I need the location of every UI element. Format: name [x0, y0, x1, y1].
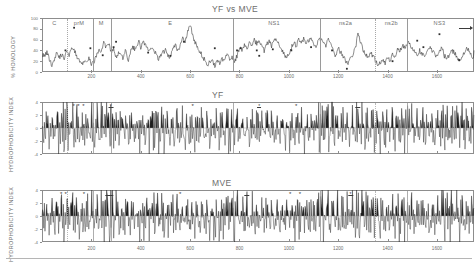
panel-homology-xtick-label: 1400	[382, 74, 392, 79]
panel-homology-xtick-mark	[437, 70, 438, 73]
panel-homology-ytick: 60	[24, 37, 38, 42]
mve-hydrophobicity-ytick: -2	[24, 227, 38, 232]
mve-hydrophobicity-xtick-mark	[338, 239, 339, 242]
conserved-site-asterisk: *	[65, 191, 67, 197]
yf-hydrophobicity-xtick-mark	[141, 151, 142, 154]
gene-region-divider	[320, 103, 321, 153]
panel-homology-xtick-mark	[190, 70, 191, 73]
conserved-site-asterisk: *	[77, 103, 79, 109]
panel-homology-xtick-label: 1000	[284, 74, 294, 79]
mve-hydrophobicity-xtick-mark	[141, 239, 142, 242]
conserved-region-marker: *	[350, 191, 352, 197]
panel-homology-ytick: 20	[24, 59, 38, 64]
yf-hydrophobicity-xtick-mark	[338, 151, 339, 154]
conserved-site-asterisk: *	[179, 191, 181, 197]
panel-homology-xtick-label: 1600	[432, 74, 442, 79]
panel-yf-hydrophobicity: YF HYDROPHOBICITY INDEX 420-2-4*******	[0, 88, 476, 176]
yf-hydrophobicity-ytick: 2	[24, 113, 38, 118]
mve-hydrophobicity-xtick-mark	[437, 239, 438, 242]
conserved-site-asterisk: *	[83, 191, 85, 197]
gene-region-divider	[407, 103, 408, 153]
panel-homology-xtick-label: 600	[186, 74, 194, 79]
gene-region-divider	[111, 103, 112, 153]
conserved-site-asterisk: *	[60, 191, 62, 197]
panel-homology-xtick-label: 200	[88, 74, 96, 79]
gene-region-divider	[320, 19, 321, 71]
panel-homology-ytick-mark	[40, 18, 42, 19]
conserved-site-asterisk: *	[299, 191, 301, 197]
yf-hydrophobicity-ytick: 4	[24, 100, 38, 105]
gene-region-divider	[93, 103, 94, 153]
gene-region-label-ns3: NS3	[434, 20, 446, 26]
mve-hydrophobicity-ytick: 2	[24, 201, 38, 206]
panel-homology: YF vs MVE % HOMOLOGY 020406080100CprMMEN…	[0, 0, 476, 90]
panel-homology-ytick: 100	[24, 16, 38, 21]
conserved-site-asterisk: *	[191, 103, 193, 109]
yf-hydrophobicity-ytick: 0	[24, 126, 38, 131]
gene-region-divider	[233, 191, 234, 241]
mve-hydrophobicity-ytick-mark	[40, 190, 42, 191]
gene-region-divider	[375, 191, 376, 241]
panel-homology-xtick-label: 1200	[333, 74, 343, 79]
conserved-region-bar	[105, 195, 112, 196]
panel-homology-ytick-mark	[40, 72, 42, 73]
panel-homology-xtick-mark	[338, 70, 339, 73]
panel-homology-ytick-mark	[40, 40, 42, 41]
mve-hydrophobicity-xtick-mark	[239, 239, 240, 242]
mve-hydrophobicity-xtick-mark	[190, 239, 191, 242]
yf-hydrophobicity-ytick-mark	[40, 128, 42, 129]
gene-region-divider	[233, 19, 234, 71]
gene-region-label-c: C	[52, 20, 56, 26]
gene-region-divider	[375, 103, 376, 153]
conserved-region-marker: *	[110, 103, 112, 109]
x-axis-tick-label: 1000	[284, 246, 294, 251]
x-axis-tick-label: 1600	[432, 246, 442, 251]
conserved-site-asterisk: *	[82, 103, 84, 109]
mve-hydrophobicity-ytick: -4	[24, 240, 38, 245]
panel-homology-xtick-mark	[388, 70, 389, 73]
x-axis-tick-label: 1400	[382, 246, 392, 251]
arrow-line	[459, 28, 470, 29]
panel-homology-ytick-mark	[40, 61, 42, 62]
yf-hydrophobicity-ytick-mark	[40, 102, 42, 103]
mve-hydrophobicity-xtick-mark	[91, 239, 92, 242]
arrow-head	[470, 26, 473, 30]
gene-region-label-ns2a: ns2a	[339, 20, 352, 26]
yf-hydrophobicity-xtick-mark	[388, 151, 389, 154]
x-axis-tick-label: 800	[236, 246, 244, 251]
conserved-site-asterisk: *	[295, 103, 297, 109]
yf-hydrophobicity-xtick-mark	[289, 151, 290, 154]
mve-hydrophobicity-ytick-mark	[40, 229, 42, 230]
yf-hydrophobicity-xtick-mark	[190, 151, 191, 154]
x-axis-line	[6, 258, 472, 259]
panel-homology-xtick-mark	[141, 70, 142, 73]
gene-region-divider	[67, 19, 68, 71]
mve-hydrophobicity-ytick-mark	[40, 203, 42, 204]
panel-homology-ytick-mark	[40, 29, 42, 30]
gene-region-divider	[111, 19, 112, 71]
yf-hydrophobicity-xtick-mark	[437, 151, 438, 154]
yf-hydrophobicity-ytick: -4	[24, 152, 38, 157]
panel-homology-xtick-label: 800	[236, 74, 244, 79]
panel-homology-ytick: 0	[24, 70, 38, 75]
gene-region-divider	[93, 191, 94, 241]
gene-region-label-m: M	[99, 20, 104, 26]
panel-yf-trace	[0, 88, 476, 176]
gene-region-divider	[320, 191, 321, 241]
x-axis-tick-label: 200	[88, 246, 96, 251]
gene-region-divider	[407, 19, 408, 71]
yf-hydrophobicity-ytick: -2	[24, 139, 38, 144]
mve-hydrophobicity-xtick-mark	[388, 239, 389, 242]
yf-hydrophobicity-ytick-mark	[40, 141, 42, 142]
yf-hydrophobicity-xtick-mark	[239, 151, 240, 154]
gene-region-divider	[67, 191, 68, 241]
panel-homology-xtick-mark	[91, 70, 92, 73]
yf-hydrophobicity-ytick-mark	[40, 154, 42, 155]
panel-homology-xtick-mark	[239, 70, 240, 73]
gene-region-label-ns2b: ns2b	[385, 20, 398, 26]
gene-region-divider	[233, 103, 234, 153]
mve-hydrophobicity-xtick-mark	[289, 239, 290, 242]
mve-hydrophobicity-ytick: 4	[24, 188, 38, 193]
panel-homology-ytick: 40	[24, 48, 38, 53]
gene-region-divider	[67, 103, 68, 153]
